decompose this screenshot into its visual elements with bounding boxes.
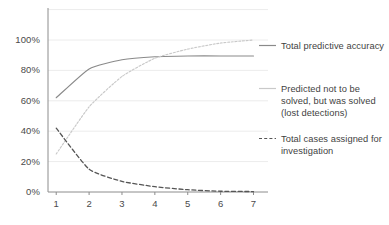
x-tick-label: 7: [243, 198, 263, 209]
y-tick-label: 100%: [6, 34, 40, 45]
x-tick-label: 6: [211, 198, 231, 209]
faint-line-marker: [259, 87, 276, 89]
series-line-3: [56, 128, 253, 191]
x-tick-label: 3: [112, 198, 132, 209]
legend-label: Predicted not to be solved, but was solv…: [281, 83, 389, 119]
chart-legend: Total predictive accuracyPredicted not t…: [259, 40, 389, 166]
legend-entry[interactable]: Total cases assigned for investigation: [259, 133, 389, 157]
gridlines: [48, 10, 268, 192]
x-tick-label: 2: [79, 198, 99, 209]
y-tick-label: 0%: [6, 186, 40, 197]
y-tick-label: 60%: [6, 95, 40, 106]
legend-entry[interactable]: Total predictive accuracy: [259, 40, 389, 52]
dashed-line-marker: [259, 137, 276, 139]
solid-line-marker: [259, 44, 276, 46]
legend-label: Total cases assigned for investigation: [281, 133, 389, 157]
series-line-1: [56, 56, 253, 98]
x-tick-label: 5: [178, 198, 198, 209]
axis-lines: [48, 8, 268, 192]
series-paths: [56, 40, 253, 192]
line-chart: 100%80%60%40%20%0% 1234567 Total predict…: [0, 0, 389, 225]
y-tick-label: 20%: [6, 156, 40, 167]
y-tick-label: 80%: [6, 64, 40, 75]
x-tick-label: 1: [46, 198, 66, 209]
y-tick-label: 40%: [6, 125, 40, 136]
x-tick-label: 4: [145, 198, 165, 209]
legend-label: Total predictive accuracy: [281, 40, 389, 52]
legend-entry[interactable]: Predicted not to be solved, but was solv…: [259, 83, 389, 119]
